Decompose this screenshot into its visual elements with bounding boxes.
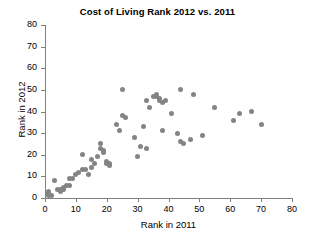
scatter-point	[138, 144, 143, 149]
scatter-chart-figure: Cost of Living Rank 2012 vs. 2011 010203…	[0, 0, 315, 243]
x-tick-mark	[107, 198, 108, 202]
scatter-point	[67, 183, 72, 188]
x-tick-label: 80	[277, 204, 307, 214]
x-tick-mark	[230, 198, 231, 202]
scatter-point	[80, 152, 85, 157]
scatter-point	[114, 122, 119, 127]
x-tick-mark	[261, 198, 262, 202]
x-tick-label: 20	[92, 204, 122, 214]
y-tick-mark	[41, 198, 45, 199]
x-tick-label: 60	[215, 204, 245, 214]
x-tick-mark	[169, 198, 170, 202]
y-axis-label: Rank in 2012	[16, 50, 27, 170]
scatter-point	[259, 122, 264, 127]
x-axis-label: Rank in 2011	[45, 219, 292, 230]
x-tick-label: 50	[184, 204, 214, 214]
scatter-point	[191, 92, 196, 97]
y-tick-label: 10	[10, 170, 37, 180]
scatter-point	[132, 135, 137, 140]
scatter-point	[231, 118, 236, 123]
x-tick-label: 70	[246, 204, 276, 214]
x-tick-mark	[199, 198, 200, 202]
x-tick-mark	[76, 198, 77, 202]
x-tick-label: 30	[123, 204, 153, 214]
scatter-point	[86, 172, 91, 177]
x-tick-label: 10	[61, 204, 91, 214]
scatter-point	[188, 137, 193, 142]
scatter-point	[200, 133, 205, 138]
scatter-point	[61, 187, 66, 192]
chart-title: Cost of Living Rank 2012 vs. 2011	[0, 6, 315, 17]
scatter-point	[52, 178, 57, 183]
x-tick-label: 0	[30, 204, 60, 214]
x-tick-label: 40	[154, 204, 184, 214]
y-tick-label: 80	[10, 19, 37, 29]
y-tick-label: 0	[10, 192, 37, 202]
scatter-point	[92, 161, 97, 166]
scatter-point	[175, 131, 180, 136]
x-tick-mark	[45, 198, 46, 202]
x-tick-mark	[138, 198, 139, 202]
x-tick-mark	[292, 198, 293, 202]
